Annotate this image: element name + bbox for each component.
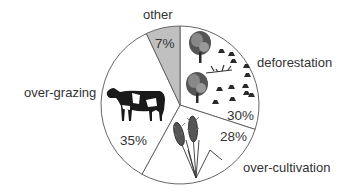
slice-label-deforestation: deforestation [257, 55, 332, 70]
slice-value-other: 7% [155, 36, 175, 51]
slice-value-deforestation: 30% [227, 108, 254, 123]
slice-label-over-grazing: over-grazing [24, 85, 96, 100]
pie-chart: other deforestation over-grazing over-cu… [0, 0, 357, 194]
slice-value-over-cultivation: 28% [220, 129, 247, 144]
slice-label-over-cultivation: over-cultivation [243, 160, 330, 175]
slice-label-other: other [143, 7, 173, 22]
slice-value-over-grazing: 35% [120, 133, 147, 148]
